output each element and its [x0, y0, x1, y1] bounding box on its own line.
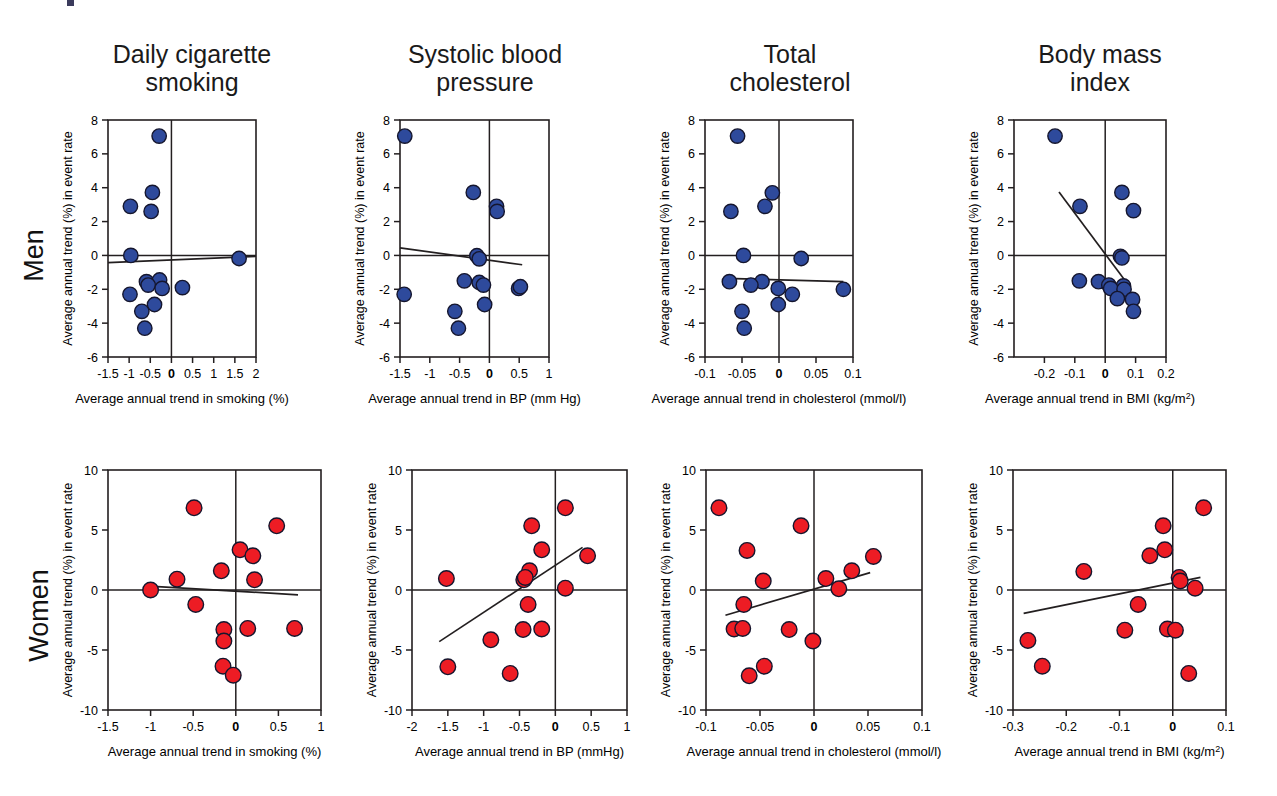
scatter-panel-women-bmi: -10-50510-0.3-0.2-0.100.1Average annual …: [955, 456, 1242, 770]
x-tick-label: 0.5: [184, 367, 201, 381]
column-title-bmi: Body mass index: [1000, 40, 1200, 96]
data-point-marker: [1076, 564, 1092, 580]
data-point-marker: [1172, 573, 1188, 589]
x-tick-label: -1: [478, 720, 489, 734]
data-point-marker: [502, 666, 518, 682]
y-axis-label: Average annual trend (%) in event rate: [61, 131, 75, 346]
y-tick-label: 4: [997, 181, 1004, 195]
x-tick-label: -0.05: [746, 720, 775, 734]
y-tick-label: 5: [996, 524, 1003, 538]
y-tick-label: -5: [391, 644, 402, 658]
x-tick-label: -0.1: [1109, 720, 1131, 734]
scatter-panel-women-smoking: -10-50510-1.5-1-0.500.51Average annual t…: [50, 456, 337, 770]
top-edge-artifact: [67, 0, 74, 6]
x-tick-label: -1.5: [437, 720, 459, 734]
y-tick-label: -6: [993, 351, 1004, 365]
data-point-marker: [1187, 580, 1203, 596]
data-point-marker: [245, 548, 261, 564]
x-tick-label: 1: [318, 720, 325, 734]
y-tick-label: 6: [997, 147, 1004, 161]
data-point-marker: [793, 518, 809, 534]
x-tick-label: -1: [124, 367, 135, 381]
y-tick-label: 2: [91, 215, 98, 229]
data-point-marker: [1048, 129, 1062, 143]
data-point-marker: [448, 304, 462, 318]
data-point-marker: [457, 274, 471, 288]
x-axis-label: Average annual trend in smoking (%): [108, 744, 322, 759]
x-tick-label: 0.2: [1157, 367, 1174, 381]
scatter-panel-women-bp: -10-50510-2-1.5-1-0.500.51Average annual…: [354, 456, 643, 770]
data-point-marker: [758, 199, 772, 213]
x-tick-label: -2: [406, 720, 417, 734]
x-tick-label: 2: [253, 367, 260, 381]
data-point-marker: [866, 549, 882, 565]
data-point-marker: [269, 518, 285, 534]
data-point-marker: [152, 129, 166, 143]
x-tick-label: 1: [546, 367, 553, 381]
y-tick-label: -6: [379, 351, 390, 365]
y-axis-label: Average annual trend (%) in event rate: [658, 131, 672, 346]
y-tick-label: 10: [84, 464, 98, 478]
y-tick-label: 4: [383, 181, 390, 195]
data-point-marker: [398, 129, 412, 143]
y-tick-label: 10: [682, 464, 696, 478]
y-tick-label: -6: [87, 351, 98, 365]
column-title-cholesterol: Total cholesterol: [690, 40, 890, 96]
data-point-marker: [580, 548, 596, 564]
x-tick-label: -0.2: [1034, 367, 1056, 381]
scatter-panel-women-cholesterol: -10-50510-0.1-0.0500.050.1Average annual…: [648, 456, 938, 770]
data-point-marker: [739, 543, 755, 559]
x-tick-label: 0: [1102, 367, 1109, 381]
y-axis-label: Average annual trend (%) in event rate: [365, 483, 379, 698]
data-point-marker: [818, 571, 834, 587]
data-point-marker: [287, 621, 303, 637]
data-point-marker: [1117, 622, 1133, 638]
data-point-marker: [515, 622, 531, 638]
x-tick-label: 1: [624, 720, 631, 734]
data-point-marker: [1126, 203, 1140, 217]
x-tick-label: 0.05: [856, 720, 880, 734]
data-point-marker: [188, 597, 204, 613]
y-tick-label: 0: [689, 584, 696, 598]
data-point-marker: [124, 248, 138, 262]
x-axis-label: Average annual trend in smoking (%): [75, 391, 289, 406]
data-point-marker: [524, 518, 540, 534]
data-point-marker: [155, 281, 169, 295]
y-tick-label: -2: [684, 283, 695, 297]
scatter-panel-men-cholesterol: -6-4-202468-0.1-0.0500.050.1Average annu…: [647, 106, 869, 417]
data-point-marker: [1072, 274, 1086, 288]
y-tick-label: -2: [87, 283, 98, 297]
x-tick-label: -1.5: [389, 367, 411, 381]
x-tick-label: 0: [232, 720, 239, 734]
x-tick-label: 0.1: [1127, 367, 1144, 381]
x-tick-label: -1: [145, 720, 156, 734]
data-point-marker: [144, 204, 158, 218]
data-point-marker: [1034, 658, 1050, 674]
column-title-smoking: Daily cigarette smoking: [92, 40, 292, 96]
y-axis-label: Average annual trend (%) in event rate: [61, 483, 75, 698]
data-point-marker: [831, 581, 847, 597]
y-axis-label: Average annual trend (%) in event rate: [353, 131, 367, 346]
data-point-marker: [1115, 185, 1129, 199]
data-point-marker: [1157, 542, 1173, 558]
data-point-marker: [477, 297, 491, 311]
plot-frame: [400, 120, 549, 357]
data-point-marker: [123, 287, 137, 301]
data-point-marker: [794, 251, 808, 265]
y-tick-label: 2: [688, 215, 695, 229]
y-tick-label: -10: [678, 704, 696, 718]
y-tick-label: 8: [688, 114, 695, 128]
data-point-marker: [476, 278, 490, 292]
x-tick-label: -0.3: [1002, 720, 1024, 734]
data-point-marker: [771, 297, 785, 311]
x-tick-label: 1.5: [226, 367, 243, 381]
y-tick-label: 6: [91, 147, 98, 161]
x-tick-label: 0.05: [804, 367, 828, 381]
y-tick-label: -5: [87, 644, 98, 658]
x-tick-label: 0: [1169, 720, 1176, 734]
data-point-marker: [138, 321, 152, 335]
data-point-marker: [520, 597, 536, 613]
data-point-marker: [805, 633, 821, 649]
row-label-men: Men: [19, 216, 50, 296]
scatter-panel-men-bp: -6-4-202468-1.5-1-0.500.51Average annual…: [342, 106, 565, 417]
